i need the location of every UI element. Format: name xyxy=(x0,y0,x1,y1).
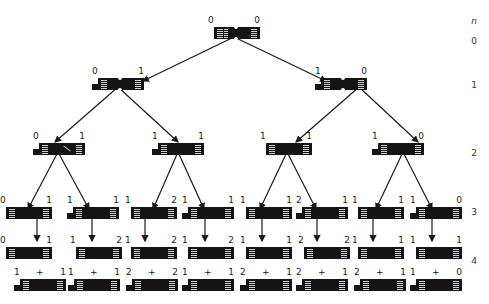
chromosome-node-l4a-4: 12 xyxy=(182,235,234,263)
chromosome-icon xyxy=(372,143,424,155)
left-count: 1 xyxy=(240,195,246,205)
chromosome-icon xyxy=(67,207,119,219)
left-count: 1 xyxy=(410,267,416,277)
chromosome-icon xyxy=(182,207,234,219)
chromosome-icon xyxy=(240,207,292,219)
right-count: 1 xyxy=(286,195,292,205)
left-count: 2 xyxy=(296,195,302,205)
left-count: 1 xyxy=(352,235,358,245)
chromosome-icon xyxy=(182,279,234,291)
chromosome-icon xyxy=(70,247,122,259)
chromosome-tree-diagram: 0 0 0 1 1 0 0 1 1 1 1 1 1 0 01 11 12 11 … xyxy=(0,0,489,304)
left-count: 2 xyxy=(354,267,360,277)
chromosome-icon xyxy=(240,279,292,291)
right-count: 0 xyxy=(418,131,424,141)
chromosome-icon xyxy=(0,247,52,259)
right-count: 2 xyxy=(228,235,234,245)
chromosome-node-l4a-1: 01 xyxy=(0,235,52,263)
right-count: 1 xyxy=(286,267,292,277)
chromosome-node-l2-4: 1 0 xyxy=(372,131,424,159)
right-count: 1 xyxy=(46,195,52,205)
generation-label-1: 1 xyxy=(471,80,477,90)
right-count: 0 xyxy=(456,195,462,205)
right-count: 1 xyxy=(228,195,234,205)
right-count: 2 xyxy=(172,267,178,277)
chromosome-icon xyxy=(296,279,348,291)
left-count: 2 xyxy=(126,267,132,277)
chromosome-icon xyxy=(352,207,404,219)
generation-label-2: 2 xyxy=(471,148,477,158)
left-count: 1 xyxy=(182,195,188,205)
chromosome-node-l2-1: 0 1 xyxy=(33,131,85,159)
chromosome-pair-l4b-6: 2+1 xyxy=(296,267,348,295)
right-count: 1 xyxy=(398,235,404,245)
chromosome-icon xyxy=(208,27,260,39)
chromosome-node-l3-2: 11 xyxy=(67,195,119,223)
left-count: 1 xyxy=(125,195,131,205)
chromosome-node-l3-4: 11 xyxy=(182,195,234,223)
right-count: 1 xyxy=(306,131,312,141)
generation-label-3: 3 xyxy=(471,207,477,217)
chromosome-icon xyxy=(352,247,404,259)
chromosome-node-l4a-7: 11 xyxy=(352,235,404,263)
chromosome-node-l4a-2: 12 xyxy=(70,235,122,263)
right-count: 1 xyxy=(79,131,85,141)
right-count: 2 xyxy=(116,235,122,245)
right-count: 1 xyxy=(198,131,204,141)
right-count: 2 xyxy=(344,235,350,245)
chromosome-icon xyxy=(354,279,406,291)
chromosome-icon xyxy=(240,247,292,259)
chromosome-icon xyxy=(14,279,66,291)
chromosome-node-l2-2: 1 1 xyxy=(152,131,204,159)
chromosome-icon xyxy=(260,143,312,155)
right-count: 0 xyxy=(361,66,367,76)
chromosome-icon xyxy=(68,279,120,291)
left-count: 1 xyxy=(182,235,188,245)
chromosome-icon xyxy=(298,247,350,259)
chromosome-icon xyxy=(92,78,144,90)
chromosome-icon xyxy=(410,279,462,291)
left-count: 1 xyxy=(260,131,266,141)
chromosome-pair-l4b-3: 2+2 xyxy=(126,267,178,295)
chromosome-icon xyxy=(126,279,178,291)
left-count: 2 xyxy=(296,267,302,277)
chromosome-icon xyxy=(152,143,204,155)
generation-axis-title: n xyxy=(471,16,477,26)
left-count: 1 xyxy=(67,195,73,205)
left-count: 0 xyxy=(92,66,98,76)
chromosome-icon xyxy=(315,78,367,90)
right-count: 1 xyxy=(400,267,406,277)
chromosome-node-l1-1: 0 1 xyxy=(92,66,144,94)
plus-sign: + xyxy=(262,267,270,277)
chromosome-node-l3-3: 12 xyxy=(125,195,177,223)
chromosome-icon xyxy=(410,207,462,219)
chromosome-node-l1-2: 1 0 xyxy=(315,66,367,94)
left-count: 0 xyxy=(0,235,6,245)
left-count: 1 xyxy=(125,235,131,245)
chromosome-node-l3-1: 01 xyxy=(0,195,52,223)
chromosome-icon xyxy=(0,207,52,219)
chromosome-pair-l4b-8: 1+0 xyxy=(410,267,462,295)
right-count: 1 xyxy=(342,267,348,277)
chromosome-node-l3-6: 21 xyxy=(296,195,348,223)
generation-label-0: 0 xyxy=(471,36,477,46)
chromosome-node-l3-5: 11 xyxy=(240,195,292,223)
left-count: 1 xyxy=(352,195,358,205)
left-count: 1 xyxy=(315,66,321,76)
right-count: 1 xyxy=(342,195,348,205)
chromosome-node-l0-1: 0 0 xyxy=(208,15,260,43)
chromosome-node-l4a-6: 22 xyxy=(298,235,350,263)
right-count: 1 xyxy=(60,267,66,277)
left-count: 1 xyxy=(372,131,378,141)
left-count: 0 xyxy=(33,131,39,141)
right-count: 0 xyxy=(254,15,260,25)
left-count: 1 xyxy=(410,195,416,205)
left-count: 2 xyxy=(240,267,246,277)
chromosome-pair-l4b-2: 1+1 xyxy=(68,267,120,295)
plus-sign: + xyxy=(90,267,98,277)
chromosome-icon xyxy=(296,207,348,219)
left-count: 1 xyxy=(182,267,188,277)
left-count: 1 xyxy=(14,267,20,277)
chromosome-icon xyxy=(33,143,85,155)
right-count: 1 xyxy=(114,267,120,277)
